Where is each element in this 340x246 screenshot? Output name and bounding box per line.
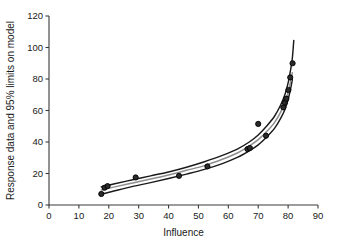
- x-tick-label: 80: [283, 210, 294, 221]
- plot-area: 0102030405060708090 020406080100120 Infl…: [5, 10, 323, 238]
- chart-figure: 0102030405060708090 020406080100120 Infl…: [0, 0, 340, 246]
- data-point-markers: [99, 61, 295, 197]
- y-tick-label: 40: [32, 136, 43, 147]
- y-axis-tick-labels: 020406080100120: [27, 10, 43, 210]
- upper-confidence-limit-line: [101, 40, 293, 186]
- data-point: [99, 191, 104, 196]
- x-tick-label: 70: [253, 210, 264, 221]
- x-axis-tick-labels: 0102030405060708090: [46, 210, 323, 221]
- y-tick-label: 100: [27, 42, 43, 53]
- x-tick-label: 40: [163, 210, 174, 221]
- y-tick-label: 20: [32, 168, 43, 179]
- y-tick-label: 80: [32, 73, 43, 84]
- data-point: [176, 173, 181, 178]
- data-point: [284, 96, 289, 101]
- x-tick-label: 30: [133, 210, 144, 221]
- x-tick-label: 20: [103, 210, 114, 221]
- data-point: [256, 121, 261, 126]
- data-point: [290, 61, 295, 66]
- data-point: [105, 184, 110, 189]
- y-tick-label: 60: [32, 105, 43, 116]
- data-point: [205, 164, 210, 169]
- data-point: [288, 75, 293, 80]
- data-point: [133, 175, 138, 180]
- x-tick-label: 90: [313, 210, 324, 221]
- data-point: [286, 87, 291, 92]
- x-tick-label: 0: [46, 210, 51, 221]
- x-tick-label: 10: [74, 210, 85, 221]
- model-fit-line: [101, 73, 292, 190]
- x-tick-label: 60: [223, 210, 234, 221]
- y-tick-label: 120: [27, 10, 43, 21]
- x-axis-title: Influence: [163, 227, 204, 238]
- y-tick-label: 0: [38, 199, 43, 210]
- y-axis-title: Response data and 95% limits on model: [5, 21, 16, 200]
- data-point: [247, 145, 252, 150]
- x-tick-label: 50: [193, 210, 204, 221]
- data-point: [263, 133, 268, 138]
